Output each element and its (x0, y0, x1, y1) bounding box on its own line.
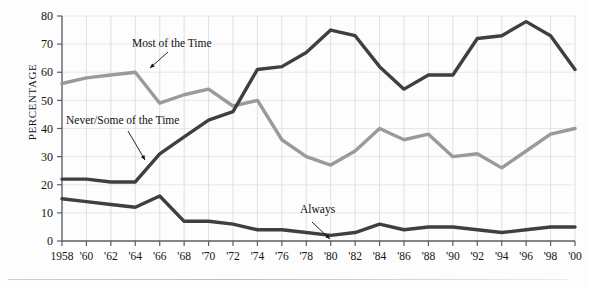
y-tick-label: 40 (41, 122, 53, 136)
x-tick-label: '90 (446, 250, 460, 262)
x-tick-label: '94 (495, 250, 509, 262)
y-tick-label: 50 (41, 94, 53, 108)
x-tick-label: '86 (397, 250, 411, 262)
x-tick-label: '98 (544, 250, 558, 262)
x-tick-label: '68 (177, 250, 191, 262)
annotation-leader-line (128, 131, 145, 160)
y-tick-label: 70 (41, 37, 53, 51)
series-line-always (62, 196, 575, 235)
x-tick-label: '74 (251, 250, 265, 262)
x-tick-label: '70 (202, 250, 216, 262)
page-footer-rule (8, 279, 568, 280)
x-tick-label: '60 (80, 250, 94, 262)
y-tick-label: 10 (41, 206, 53, 220)
y-tick-label: 60 (41, 65, 53, 79)
annotation-label-never-some-of-the-time: Never/Some of the Time (66, 114, 179, 126)
x-tick-label: '88 (422, 250, 436, 262)
x-tick-label: '92 (470, 250, 484, 262)
x-tick-label: '72 (226, 250, 240, 262)
x-tick-label: '76 (275, 250, 289, 262)
x-tick-label: '00 (568, 250, 582, 262)
y-tick-label: 30 (41, 150, 53, 164)
x-tick-label: '66 (153, 250, 167, 262)
y-tick-label: 20 (41, 178, 53, 192)
x-tick-label: '82 (348, 250, 362, 262)
x-tick-label: '96 (519, 250, 533, 262)
x-tick-label: '80 (324, 250, 338, 262)
y-tick-label: 0 (47, 234, 53, 248)
chart-container: PERCENTAGE 010203040506070801958'60'62'6… (0, 0, 589, 288)
y-tick-label: 80 (41, 9, 53, 23)
x-tick-label: '78 (299, 250, 313, 262)
annotation-label-always: Always (300, 203, 336, 216)
x-tick-label: '84 (373, 250, 387, 262)
line-chart: 010203040506070801958'60'62'64'66'68'70'… (0, 0, 589, 288)
annotation-label-most-of-the-time: Most of the Time (132, 37, 212, 49)
x-tick-label: 1958 (51, 250, 74, 262)
x-tick-label: '64 (128, 250, 142, 262)
x-tick-label: '62 (104, 250, 118, 262)
